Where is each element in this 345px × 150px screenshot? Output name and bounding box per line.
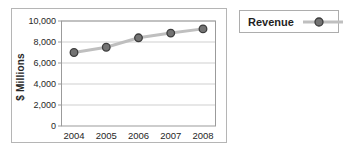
data-point-marker [135, 34, 143, 42]
x-tick-label: 2004 [58, 130, 90, 142]
y-tick-label: 0 [20, 120, 56, 132]
legend-marker-icon [315, 18, 323, 26]
x-tick-label: 2008 [187, 130, 219, 142]
x-tick-label: 2005 [90, 130, 122, 142]
data-point-marker [70, 49, 78, 57]
legend-series-label: Revenue [248, 16, 294, 28]
y-tick-label: 8,000 [20, 36, 56, 48]
y-tick-label: 10,000 [20, 15, 56, 27]
y-tick-label: 6,000 [20, 57, 56, 69]
data-point-marker [167, 29, 175, 37]
legend-line-marker-sample [301, 16, 345, 28]
x-tick-label: 2006 [123, 130, 155, 142]
x-tick-label: 2007 [155, 130, 187, 142]
data-point-marker [102, 43, 110, 51]
legend-box[interactable]: Revenue [239, 10, 339, 33]
data-point-marker [199, 25, 207, 33]
y-tick-label: 2,000 [20, 99, 56, 111]
y-tick-label: 4,000 [20, 78, 56, 90]
plot-svg [57, 20, 216, 128]
chart-panel[interactable]: $ Millions 02,0004,0006,0008,00010,00020… [11, 8, 227, 143]
